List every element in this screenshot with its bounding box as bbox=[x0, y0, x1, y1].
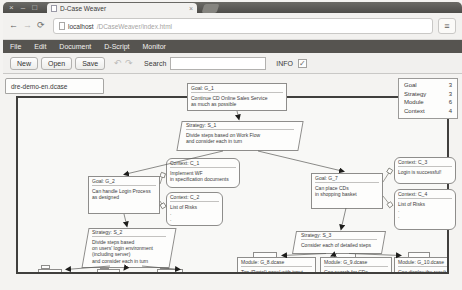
node-title: Context: C_4 bbox=[398, 191, 452, 199]
back-icon[interactable]: ← bbox=[9, 18, 18, 33]
browser-menu-button[interactable]: ≡ bbox=[438, 18, 456, 34]
menu-item-monitor[interactable]: Monitor bbox=[143, 43, 166, 50]
node-module-g10[interactable]: Module: G_10.dcase Can display the resul… bbox=[394, 257, 449, 274]
node-title: Context: C_3 bbox=[398, 159, 452, 167]
page-icon bbox=[59, 22, 65, 30]
node-title: Strategy: S_3 bbox=[301, 232, 377, 240]
node-strategy-s1[interactable]: Strategy: S_1 Divide steps based on Work… bbox=[179, 121, 301, 151]
save-button[interactable]: Save bbox=[75, 57, 105, 70]
stat-module-value: 6 bbox=[449, 99, 452, 105]
node-module-stub-2[interactable] bbox=[97, 269, 120, 274]
node-strategy-s2[interactable]: Strategy: S_2 Divide steps based on user… bbox=[85, 228, 173, 268]
tab-favicon-icon bbox=[51, 5, 57, 12]
node-strategy-s3[interactable]: Strategy: S_3 Consider each of detailed … bbox=[294, 231, 384, 254]
menu-item-edit[interactable]: Edit bbox=[34, 43, 46, 50]
node-goal-g7[interactable]: Goal: G_7 Can place CDs in shopping bask… bbox=[311, 173, 383, 209]
stat-goal-value: 3 bbox=[449, 82, 452, 88]
node-module-stub-1[interactable] bbox=[38, 269, 62, 274]
new-tab-button[interactable] bbox=[202, 4, 220, 13]
node-title: Strategy: S_1 bbox=[186, 122, 294, 130]
node-title: Context: C_1 bbox=[170, 160, 236, 168]
node-context-c4[interactable]: Context: C_4 List of Risks . . bbox=[394, 189, 456, 230]
node-text: Can display the result bbox=[398, 269, 449, 274]
stat-module-label: Module bbox=[404, 99, 424, 105]
node-module-stub-3[interactable] bbox=[157, 269, 183, 274]
node-module-g9[interactable]: Module: G_9.dcase Can search for CDs bbox=[320, 257, 392, 274]
hamburger-icon: ≡ bbox=[444, 21, 449, 31]
search-input[interactable] bbox=[170, 57, 266, 70]
info-checkbox[interactable]: ✓ bbox=[298, 59, 307, 68]
reload-icon[interactable]: ⟳ bbox=[37, 18, 45, 33]
node-text: as much as possible bbox=[191, 101, 283, 107]
url-field[interactable]: localhost /DCaseWeaver/index.html bbox=[53, 18, 433, 34]
node-title: Context: C_2 bbox=[170, 194, 219, 202]
new-button[interactable]: New bbox=[10, 57, 38, 70]
redo-icon[interactable]: ↷ bbox=[125, 58, 133, 68]
stat-context-value: 4 bbox=[449, 108, 452, 114]
node-title: Goal: G_7 bbox=[315, 175, 379, 183]
stat-goal-label: Goal bbox=[404, 82, 417, 88]
url-path: /DCaseWeaver/index.html bbox=[97, 23, 172, 30]
node-goal-g2[interactable]: Goal: G_2 Can handle Login Process as de… bbox=[88, 176, 160, 214]
node-text: and consider each in turn bbox=[186, 138, 294, 144]
node-text: Can search for CDs bbox=[324, 269, 388, 274]
node-text: . bbox=[170, 216, 219, 222]
node-title: Goal: G_2 bbox=[92, 178, 156, 186]
node-title: Module: G_10.dcase bbox=[398, 259, 449, 267]
node-title: Strategy: S_2 bbox=[92, 229, 166, 237]
node-text: Consider each of detailed steps bbox=[301, 242, 377, 248]
node-title: Module: G_8.dcase bbox=[241, 259, 312, 267]
node-module-g8[interactable]: Module: G_8.dcase Top (Portal) panel wit… bbox=[237, 257, 316, 274]
node-text: . bbox=[398, 213, 452, 219]
menu-item-document[interactable]: Document bbox=[59, 43, 91, 50]
node-title: Module: G_9.dcase bbox=[324, 259, 388, 267]
tab-close-icon[interactable]: × bbox=[189, 5, 193, 12]
node-text: as designed bbox=[92, 194, 156, 200]
menu-item-dscript[interactable]: D-Script bbox=[104, 43, 129, 50]
stat-context-label: Context bbox=[404, 108, 425, 114]
file-tab-label: dre-demo-en.dcase bbox=[11, 83, 67, 90]
address-bar: ← → ⟳ localhost /DCaseWeaver/index.html … bbox=[3, 13, 462, 40]
node-text: in specification documents bbox=[170, 176, 236, 182]
open-button[interactable]: Open bbox=[41, 57, 72, 70]
info-label: INFO bbox=[276, 60, 293, 67]
app-menu-bar: File Edit Document D-Script Monitor bbox=[3, 40, 462, 53]
node-context-c3[interactable]: Context: C_3 Login is successful! bbox=[394, 157, 456, 184]
app-toolbar: New Open Save ↶ ↷ Search INFO ✓ bbox=[3, 53, 462, 74]
search-label: Search bbox=[144, 60, 166, 67]
undo-icon[interactable]: ↶ bbox=[114, 58, 122, 68]
node-text: and consider each in turn bbox=[92, 258, 166, 264]
node-context-c1[interactable]: Context: C_1 Implement WF in specificati… bbox=[166, 158, 240, 188]
stats-panel: Goal3 Strategy3 Module6 Context4 bbox=[398, 78, 458, 119]
menu-item-file[interactable]: File bbox=[10, 43, 21, 50]
node-text: Login is successful! bbox=[398, 169, 452, 175]
tab-title: D-Case Weaver bbox=[60, 5, 186, 12]
node-text: Top (Portal) panel with input bbox=[241, 269, 312, 274]
node-goal-g1[interactable]: Goal: G_1 Continue CD Online Sales Servi… bbox=[187, 83, 287, 111]
file-tab[interactable]: dre-demo-en.dcase bbox=[5, 78, 104, 94]
forward-icon[interactable]: → bbox=[23, 18, 32, 33]
node-context-c2[interactable]: Context: C_2 List of Risks . . bbox=[166, 192, 223, 226]
node-text: in shopping basket bbox=[315, 191, 379, 197]
url-host: localhost bbox=[68, 23, 94, 30]
node-title: Goal: G_1 bbox=[191, 85, 283, 93]
stat-strategy-value: 3 bbox=[449, 91, 452, 97]
stat-strategy-label: Strategy bbox=[404, 91, 426, 97]
